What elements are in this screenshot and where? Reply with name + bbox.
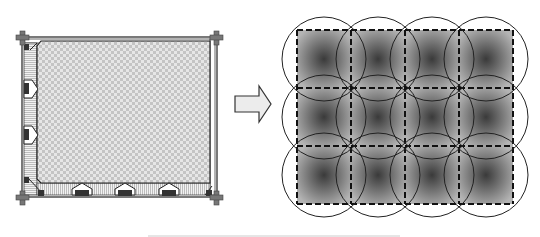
room-floor-plan (16, 31, 223, 205)
floor-area (37, 41, 210, 183)
right-arrow-icon (235, 86, 271, 122)
left-wall-strip (24, 43, 37, 195)
bottom-wall-post (38, 190, 44, 196)
right-wall (210, 39, 215, 195)
diagram-canvas (0, 0, 540, 237)
coverage-grid (282, 17, 528, 217)
left-wall-post (24, 177, 29, 183)
